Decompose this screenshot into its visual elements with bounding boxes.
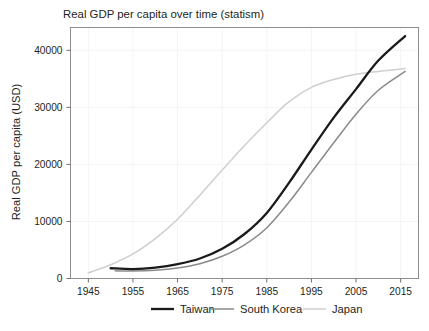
chart-title: Real GDP per capita over time (statism): [63, 8, 264, 20]
y-tick-label: 40000: [34, 45, 63, 56]
x-tick-label: 1995: [300, 286, 323, 297]
x-tick-label: 1975: [211, 286, 234, 297]
real-gdp-per-capita-line-chart: Real GDP per capita over time (statism) …: [0, 0, 429, 331]
y-axis-title: Real GDP per capita (USD): [10, 83, 22, 220]
legend-label: South Korea: [240, 303, 303, 315]
y-tick-label: 20000: [34, 159, 63, 170]
y-tick-label: 30000: [34, 102, 63, 113]
x-tick-label: 2015: [389, 286, 412, 297]
x-tick-label: 1945: [77, 286, 100, 297]
legend-label: Japan: [332, 303, 362, 315]
x-tick-label: 1965: [166, 286, 189, 297]
legend-label: Taiwan: [180, 303, 215, 315]
x-tick-label: 2005: [345, 286, 368, 297]
y-tick-label: 10000: [34, 216, 63, 227]
canvas-background: [0, 0, 429, 331]
chart-container: Real GDP per capita over time (statism) …: [0, 0, 429, 331]
x-tick-label: 1985: [255, 286, 278, 297]
y-tick-label: 0: [57, 273, 63, 284]
x-tick-label: 1955: [122, 286, 145, 297]
